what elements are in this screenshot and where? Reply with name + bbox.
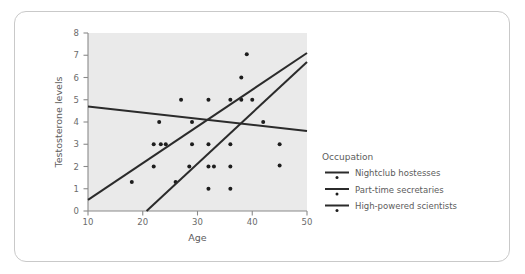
data-point — [190, 120, 194, 124]
x-axis-ticks — [88, 211, 307, 216]
y-tick-label-0: 0 — [74, 206, 79, 216]
data-point — [206, 98, 210, 102]
legend-item-part-time-secretaries[interactable]: Part-time secretaries — [325, 185, 444, 196]
data-point — [206, 142, 210, 146]
data-point — [228, 165, 232, 169]
data-point — [278, 163, 282, 167]
legend-item-label: Nightclub hostesses — [355, 168, 441, 178]
x-axis-title: Age — [188, 232, 207, 243]
y-tick-label-4: 4 — [74, 117, 79, 127]
data-point — [239, 76, 243, 80]
y-tick-label-8: 8 — [74, 28, 79, 38]
y-axis-title: Testosterone levels — [53, 76, 64, 168]
y-tick-label-6: 6 — [74, 73, 79, 83]
legend-item-label: Part-time secretaries — [355, 185, 444, 195]
data-point — [179, 98, 183, 102]
x-tick-label-20: 20 — [137, 217, 148, 227]
data-point — [278, 142, 282, 146]
data-point — [130, 180, 134, 184]
legend: Occupation Nightclub hostesses Part-time… — [322, 152, 458, 212]
data-point — [261, 120, 265, 124]
legend-key-dot — [336, 209, 339, 212]
data-point — [250, 98, 254, 102]
data-point — [245, 52, 249, 56]
data-point — [228, 142, 232, 146]
data-point — [159, 142, 163, 146]
legend-key-dot — [336, 193, 339, 196]
y-tick-label-1: 1 — [74, 184, 79, 194]
data-point — [212, 165, 216, 169]
data-point — [228, 98, 232, 102]
y-tick-label-7: 7 — [74, 50, 79, 60]
scatter-plot-figure: 0 1 2 3 4 5 6 7 8 10 20 30 40 50 Age Tes… — [0, 0, 525, 274]
data-point — [206, 187, 210, 191]
x-tick-label-30: 30 — [192, 217, 203, 227]
data-point — [206, 165, 210, 169]
legend-title: Occupation — [322, 152, 373, 162]
x-tick-label-10: 10 — [83, 217, 94, 227]
plot-area-background — [88, 33, 307, 211]
y-axis-ticks — [84, 33, 89, 211]
legend-item-high-powered-scientists[interactable]: High-powered scientists — [325, 201, 458, 212]
y-tick-label-3: 3 — [74, 139, 79, 149]
legend-key-dot — [336, 176, 339, 179]
x-tick-label-40: 40 — [247, 217, 258, 227]
y-tick-label-5: 5 — [74, 95, 79, 105]
legend-item-label: High-powered scientists — [355, 201, 458, 211]
data-point — [157, 120, 161, 124]
data-point — [152, 142, 156, 146]
data-point — [152, 165, 156, 169]
data-point — [228, 187, 232, 191]
x-tick-label-50: 50 — [302, 217, 313, 227]
data-point — [190, 142, 194, 146]
legend-item-nightclub-hostesses[interactable]: Nightclub hostesses — [325, 168, 441, 179]
chart-page: 0 1 2 3 4 5 6 7 8 10 20 30 40 50 Age Tes… — [0, 0, 525, 274]
data-point — [187, 165, 191, 169]
y-tick-label-2: 2 — [74, 162, 79, 172]
